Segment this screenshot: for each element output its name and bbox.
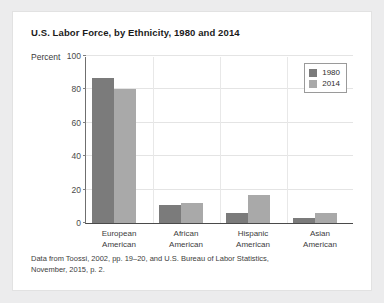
legend-label-1980: 1980 <box>322 68 340 77</box>
y-axis-tick-label: 40 <box>72 151 81 161</box>
bar-1980 <box>159 205 181 223</box>
gridline <box>86 55 353 56</box>
bar-group: EuropeanAmerican <box>86 57 153 223</box>
bar-1980 <box>293 218 315 223</box>
legend-swatch-1980 <box>309 69 317 77</box>
legend-item-1980: 1980 <box>309 67 340 78</box>
y-axis-tick-label: 80 <box>72 84 81 94</box>
source-line-1: Data from Toossi, 2002, pp. 19–20, and U… <box>31 253 331 264</box>
source-line-2: November, 2015, p. 2. <box>31 264 331 275</box>
y-axis-tick-label: 100 <box>67 51 81 61</box>
y-axis-tick-label: 0 <box>76 218 81 228</box>
y-axis-tick-label: 20 <box>72 185 81 195</box>
bar-1980 <box>226 213 248 223</box>
x-axis-category-label-line1: Asian <box>285 229 355 240</box>
legend-label-2014: 2014 <box>322 79 340 88</box>
x-axis-category-label-line2: American <box>285 240 355 251</box>
y-axis-tick-mark <box>83 55 86 56</box>
bar-2014 <box>114 89 136 223</box>
x-axis-category-label: AsianAmerican <box>285 229 355 250</box>
legend-item-2014: 2014 <box>309 78 340 89</box>
x-axis-category-label-line2: American <box>218 240 288 251</box>
x-axis-category-label-line2: American <box>151 240 221 251</box>
bar-group: HispanicAmerican <box>220 57 287 223</box>
bar-2014 <box>315 213 337 223</box>
figure-card: U.S. Labor Force, by Ethnicity, 1980 and… <box>12 11 372 291</box>
x-axis-category-label: HispanicAmerican <box>218 229 288 250</box>
plot-area: 020406080100 EuropeanAmericanAfricanAmer… <box>85 57 353 224</box>
x-axis-category-label-line1: Hispanic <box>218 229 288 240</box>
bar-2014 <box>181 203 203 223</box>
plot-wrapper: 020406080100 EuropeanAmericanAfricanAmer… <box>85 57 353 224</box>
x-axis-category-label: AfricanAmerican <box>151 229 221 250</box>
page-title: U.S. Labor Force, by Ethnicity, 1980 and… <box>31 27 240 38</box>
x-axis-category-label: EuropeanAmerican <box>84 229 154 250</box>
x-axis-category-label-line1: African <box>151 229 221 240</box>
y-axis-title: Percent <box>31 52 60 62</box>
x-axis-category-label-line2: American <box>84 240 154 251</box>
x-axis-category-label-line1: European <box>84 229 154 240</box>
bar-group: AfricanAmerican <box>153 57 220 223</box>
bar-2014 <box>248 195 270 223</box>
bar-1980 <box>92 78 114 223</box>
legend-swatch-2014 <box>309 80 317 88</box>
legend: 1980 2014 <box>304 63 347 93</box>
source-note: Data from Toossi, 2002, pp. 19–20, and U… <box>31 253 331 275</box>
y-axis-tick-label: 60 <box>72 118 81 128</box>
